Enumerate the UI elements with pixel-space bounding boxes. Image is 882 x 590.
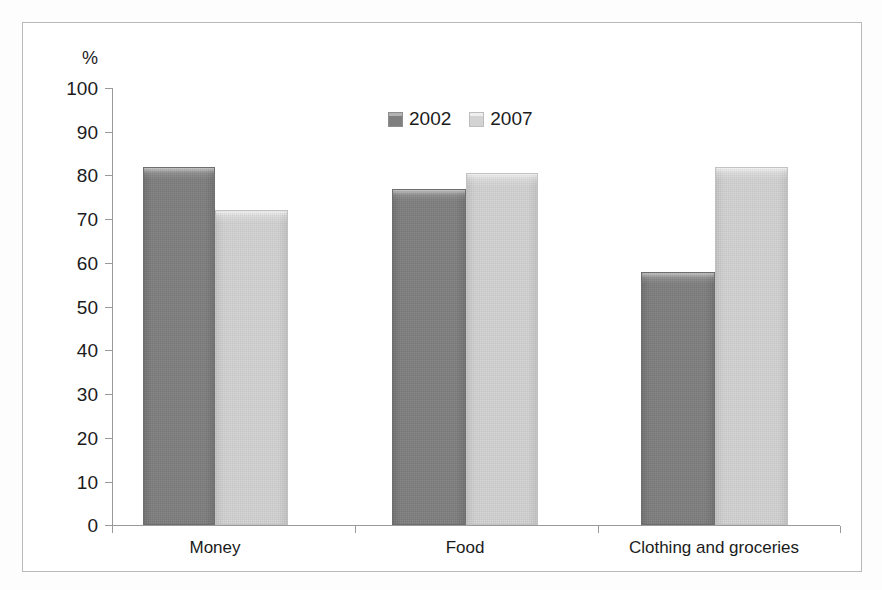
x-tick-1	[355, 526, 356, 533]
y-tick-label-0: 0	[42, 516, 98, 535]
y-tick-label-70: 70	[42, 210, 98, 229]
chart-page: % 100 90 80 70 60 50 40 30 20 10 0	[0, 0, 882, 590]
y-tick-label-100: 100	[42, 79, 98, 98]
legend-swatch-icon-2002	[388, 112, 403, 127]
bar-2002-money	[143, 167, 215, 525]
y-tick-label-40: 40	[42, 341, 98, 360]
y-tick-0	[105, 525, 112, 526]
y-tick-10	[105, 482, 112, 483]
y-tick-label-30: 30	[42, 385, 98, 404]
y-tick-70	[105, 219, 112, 220]
y-tick-label-10: 10	[42, 473, 98, 492]
legend-label-2007: 2007	[490, 108, 532, 130]
y-tick-100	[105, 88, 112, 89]
bar-2007-money	[215, 210, 288, 525]
legend-item-2007: 2007	[469, 108, 532, 130]
y-tick-label-60: 60	[42, 254, 98, 273]
y-tick-30	[105, 394, 112, 395]
legend-swatch-icon-2007	[469, 112, 484, 127]
bar-2007-food	[466, 173, 538, 525]
y-tick-20	[105, 438, 112, 439]
bar-2007-clothing-and-groceries	[715, 167, 788, 525]
y-tick-label-80: 80	[42, 166, 98, 185]
x-category-label-food: Food	[405, 538, 525, 558]
y-tick-60	[105, 263, 112, 264]
y-axis-line	[112, 88, 113, 525]
x-tick-3	[840, 526, 841, 533]
y-tick-80	[105, 175, 112, 176]
y-tick-90	[105, 132, 112, 133]
bar-2002-food	[392, 189, 466, 525]
x-tick-2	[598, 526, 599, 533]
chart-plot-area: % 100 90 80 70 60 50 40 30 20 10 0	[0, 0, 882, 590]
x-axis-line	[112, 525, 840, 526]
y-tick-40	[105, 350, 112, 351]
y-tick-label-50: 50	[42, 298, 98, 317]
y-tick-label-20: 20	[42, 429, 98, 448]
legend-item-2002: 2002	[388, 108, 451, 130]
legend-label-2002: 2002	[409, 108, 451, 130]
y-axis-unit-label: %	[42, 48, 98, 69]
bar-2002-clothing-and-groceries	[641, 272, 715, 525]
y-tick-50	[105, 307, 112, 308]
y-tick-label-90: 90	[42, 123, 98, 142]
x-category-label-clothing-and-groceries: Clothing and groceries	[604, 538, 824, 558]
x-tick-0	[112, 526, 113, 533]
x-category-label-money: Money	[155, 538, 275, 558]
chart-legend: 2002 2007	[388, 108, 533, 130]
